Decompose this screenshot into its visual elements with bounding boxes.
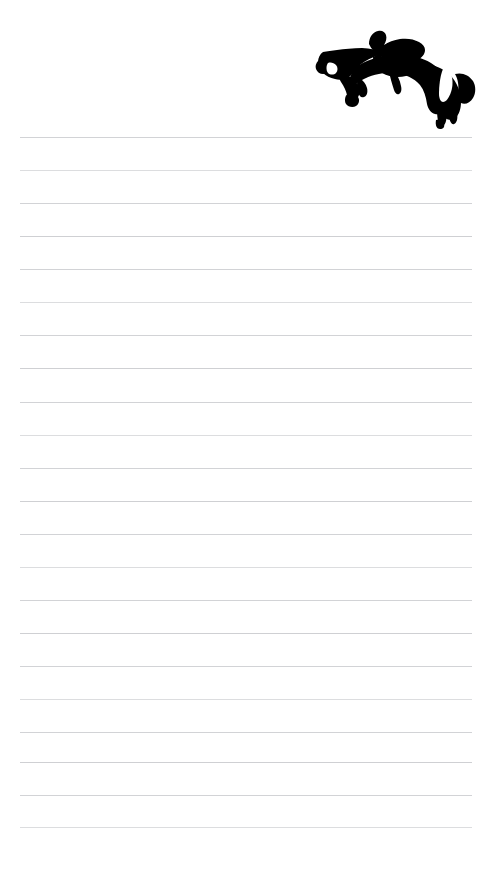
rule-line <box>20 699 472 700</box>
rule-line <box>20 534 472 535</box>
notepaper-page <box>0 0 498 872</box>
rule-line <box>20 236 472 237</box>
rule-line <box>20 633 472 634</box>
rule-line <box>20 402 472 403</box>
rule-line <box>20 600 472 601</box>
rule-line <box>20 567 472 568</box>
rule-line <box>20 302 472 303</box>
rule-line <box>20 666 472 667</box>
rule-line <box>20 795 472 796</box>
header-artwork <box>315 14 477 130</box>
rule-line <box>20 501 472 502</box>
rule-line <box>20 335 472 336</box>
rule-line <box>20 468 472 469</box>
rule-line <box>20 269 472 270</box>
rule-line <box>20 762 472 763</box>
show-jumping-horse-and-rider-silhouette-icon <box>315 14 477 130</box>
rule-line <box>20 137 472 138</box>
rule-line <box>20 827 472 828</box>
rule-line <box>20 435 472 436</box>
rule-line <box>20 368 472 369</box>
ruled-writing-area[interactable] <box>0 0 498 872</box>
rule-line <box>20 203 472 204</box>
rule-line <box>20 170 472 171</box>
rule-line <box>20 732 472 733</box>
